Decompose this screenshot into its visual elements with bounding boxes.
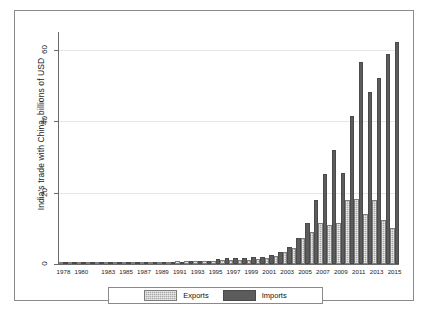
bar-group [68,262,77,264]
bar-group [131,262,140,264]
x-axis-line [58,264,399,265]
bar-group [283,247,292,264]
bar-group [256,257,265,264]
bar-group [229,258,238,264]
bar-group [211,259,220,264]
y-axis-tick-label: 20 [40,183,49,201]
legend-label: Exports [183,291,208,300]
y-axis-tick-label: 60 [40,40,49,58]
bar-group [274,252,283,264]
y-axis-tick-label: 40 [40,112,49,130]
bar-group [301,223,310,264]
bar-group [148,262,157,264]
plot-area: 0204060 [59,32,399,264]
legend-label: Imports [262,291,287,300]
bar-group [345,116,354,264]
bar-group [372,78,381,264]
bar-group [184,261,193,264]
bar-group [104,262,113,264]
bar-group [140,262,149,264]
bar-imports [395,42,399,264]
bar-group [265,255,274,264]
y-axis-tick [54,264,59,265]
legend-swatch-imports [223,290,256,301]
bar-group [354,62,363,264]
chart-frame: India's trade with China, billions of US… [14,10,414,301]
y-axis-title: India's trade with China, billions of US… [36,29,46,239]
bar-group [202,261,211,264]
bar-group [318,174,327,264]
bar-group [157,262,166,264]
bar-group [327,150,336,264]
bar-group [166,262,175,264]
bar-group [292,238,301,264]
bar-group [77,262,86,264]
bar-group [113,262,122,264]
chart-legend: ExportsImports [108,287,323,304]
bar-group [238,258,247,264]
x-axis-tick-label: 1980 [70,268,92,275]
bar-group [122,262,131,264]
bar-group [363,92,372,264]
bar-group [336,173,345,264]
legend-item-exports[interactable]: Exports [144,290,208,301]
y-axis-tick-label: 0 [40,255,49,273]
bar-group [193,261,202,264]
bar-group [95,262,104,264]
legend-swatch-exports [144,290,177,301]
gridline [59,50,399,51]
bar-group [59,262,68,264]
bar-group [175,261,184,264]
legend-item-imports[interactable]: Imports [223,290,287,301]
bar-group [86,262,95,264]
bar-group [390,42,399,264]
bar-group [247,257,256,264]
y-axis-tick [54,193,59,194]
bar-group [310,200,319,264]
bar-group [381,54,390,264]
x-axis-tick-label: 2015 [384,268,406,275]
y-axis-tick [54,121,59,122]
bar-group [220,258,229,264]
y-axis-tick [54,50,59,51]
